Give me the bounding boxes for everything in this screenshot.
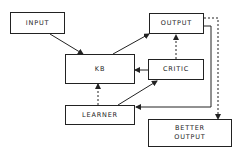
node-input: INPUT (10, 12, 65, 34)
node-kb-label: KB (95, 65, 105, 74)
node-critic: CRITIC (148, 59, 204, 80)
node-kb: KB (65, 54, 135, 84)
edge-input-to-kb (50, 34, 83, 54)
node-learner: LEARNER (65, 105, 135, 125)
node-output: OUTPUT (149, 13, 204, 34)
node-better-output-label-line2: OUTPUT (174, 133, 205, 142)
node-better-output-label-line1: BETTER (175, 124, 205, 133)
node-better-output: BETTER OUTPUT (148, 119, 232, 147)
node-critic-label: CRITIC (163, 65, 189, 74)
edge-learner-to-critic (118, 81, 157, 105)
node-learner-label: LEARNER (82, 111, 118, 120)
edge-kb-to-output (113, 34, 149, 54)
node-input-label: INPUT (26, 19, 49, 28)
node-output-label: OUTPUT (161, 19, 192, 28)
